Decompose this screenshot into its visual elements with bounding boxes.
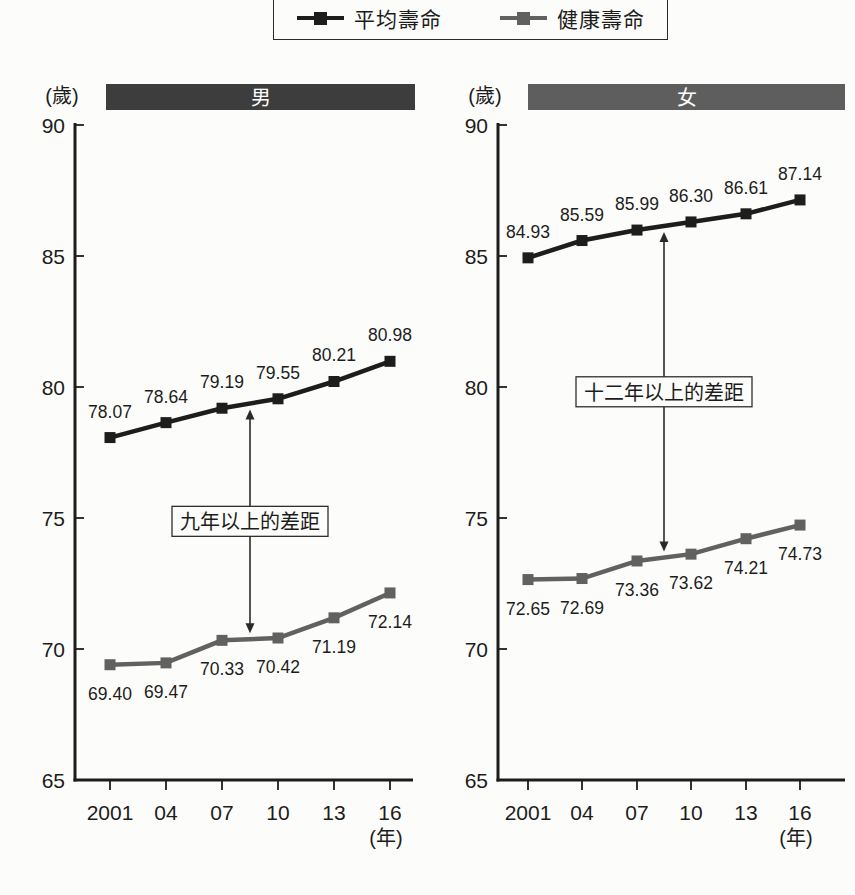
data-point-marker: [273, 632, 284, 643]
x-tick-label: 13: [734, 801, 757, 824]
data-point-label: 78.07: [88, 402, 132, 422]
y-tick-label: 90: [42, 114, 65, 137]
y-tick-label: 70: [465, 638, 488, 661]
legend-label-healthy: 健康壽命: [557, 3, 645, 33]
gap-arrowhead-down-icon: [660, 542, 669, 552]
data-point-marker: [385, 587, 396, 598]
data-point-marker: [329, 612, 340, 623]
gap-annotation-label: 十二年以上的差距: [584, 382, 744, 404]
y-tick-label: 85: [465, 245, 488, 268]
data-point-marker: [273, 393, 284, 404]
data-point-label: 87.14: [778, 164, 822, 184]
y-tick-label: 65: [465, 769, 488, 792]
legend-item-healthy-lifespan: 健康壽命: [500, 3, 645, 33]
data-point-marker: [577, 235, 588, 246]
data-point-marker: [795, 520, 806, 531]
x-tick-label: 04: [154, 801, 178, 824]
data-point-label: 69.47: [144, 682, 188, 702]
data-point-label: 69.40: [88, 684, 132, 704]
data-point-marker: [632, 225, 643, 236]
data-point-label: 73.36: [615, 580, 659, 600]
data-point-label: 72.14: [368, 612, 412, 632]
y-tick-label: 80: [465, 376, 488, 399]
data-point-marker: [577, 573, 588, 584]
y-tick-label: 85: [42, 245, 65, 268]
x-tick-label: 2001: [87, 801, 134, 824]
chart-title: 女: [677, 87, 697, 109]
data-point-marker: [105, 432, 116, 443]
x-axis-unit-label: (年): [369, 827, 402, 849]
x-tick-label: 10: [679, 801, 702, 824]
charts-canvas: 男(歲)90858075706520010407101316(年)九年以上的差距…: [0, 0, 855, 895]
x-axis-unit-label: (年): [779, 827, 812, 849]
data-point-marker: [385, 356, 396, 367]
legend-marker-average-icon: [297, 16, 344, 21]
legend-item-average-lifespan: 平均壽命: [297, 3, 442, 33]
data-point-marker: [632, 555, 643, 566]
figure-lifespan-charts: 男(歲)90858075706520010407101316(年)九年以上的差距…: [0, 0, 855, 895]
data-point-marker: [523, 574, 534, 585]
data-point-marker: [217, 403, 228, 414]
x-tick-label: 13: [322, 801, 345, 824]
legend-label-average: 平均壽命: [354, 3, 442, 33]
y-tick-label: 65: [42, 769, 65, 792]
data-point-marker: [686, 549, 697, 560]
legend-marker-healthy-icon: [500, 16, 547, 21]
data-point-label: 80.98: [368, 325, 412, 345]
gap-arrowhead-up-icon: [660, 232, 669, 242]
data-point-marker: [329, 376, 340, 387]
y-tick-label: 70: [42, 638, 65, 661]
data-point-label: 79.19: [200, 372, 244, 392]
x-tick-label: 07: [210, 801, 233, 824]
chart-male: 男(歲)90858075706520010407101316(年)九年以上的差距…: [42, 84, 415, 849]
data-point-label: 78.64: [144, 387, 188, 407]
data-point-label: 85.99: [615, 194, 659, 214]
chart-title: 男: [251, 87, 271, 109]
data-point-marker: [795, 194, 806, 205]
data-point-marker: [741, 208, 752, 219]
data-point-label: 71.19: [312, 637, 356, 657]
x-tick-label: 16: [378, 801, 401, 824]
chart-female: 女(歲)90858075706520010407101316(年)十二年以上的差…: [465, 84, 845, 849]
data-point-label: 84.93: [506, 222, 550, 242]
data-point-label: 70.33: [200, 659, 244, 679]
data-point-label: 85.59: [560, 205, 604, 225]
data-point-label: 79.55: [256, 363, 300, 383]
data-point-label: 86.61: [724, 178, 768, 198]
gap-annotation-label: 九年以上的差距: [180, 511, 320, 533]
y-axis-unit-label: (歲): [468, 85, 501, 107]
y-tick-label: 75: [465, 507, 488, 530]
x-tick-label: 10: [266, 801, 289, 824]
x-tick-label: 16: [788, 801, 811, 824]
data-point-label: 72.69: [560, 598, 604, 618]
data-point-label: 86.30: [669, 186, 713, 206]
data-point-label: 72.65: [506, 599, 550, 619]
y-axis-unit-label: (歲): [45, 85, 78, 107]
data-point-label: 74.21: [724, 558, 768, 578]
data-point-label: 80.21: [312, 345, 356, 365]
y-tick-label: 90: [465, 114, 488, 137]
x-tick-label: 07: [625, 801, 648, 824]
x-tick-label: 2001: [505, 801, 552, 824]
data-point-marker: [523, 252, 534, 263]
legend: 平均壽命 健康壽命: [273, 0, 668, 40]
data-point-label: 70.42: [256, 657, 300, 677]
data-point-marker: [161, 657, 172, 668]
data-point-label: 74.73: [778, 544, 822, 564]
data-point-marker: [686, 216, 697, 227]
data-point-label: 73.62: [669, 573, 713, 593]
data-point-marker: [217, 635, 228, 646]
data-point-marker: [105, 659, 116, 670]
data-point-marker: [741, 533, 752, 544]
gap-arrowhead-up-icon: [246, 410, 255, 420]
x-tick-label: 04: [570, 801, 594, 824]
y-tick-label: 80: [42, 376, 65, 399]
gap-arrowhead-down-icon: [246, 623, 255, 633]
data-point-marker: [161, 417, 172, 428]
y-tick-label: 75: [42, 507, 65, 530]
